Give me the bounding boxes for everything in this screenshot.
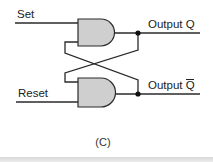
top-and-gate bbox=[78, 19, 115, 46]
junction-dot-q-bar bbox=[135, 91, 140, 96]
bottom-and-gate bbox=[78, 78, 116, 107]
sr-latch-diagram: Set Reset Output Q Output Q (C) bbox=[0, 0, 213, 162]
set-label: Set bbox=[17, 8, 35, 20]
output-q-bar-prefix: Output bbox=[148, 79, 186, 91]
junction-dot-q bbox=[135, 30, 140, 35]
output-q-bar-label: Output Q bbox=[148, 79, 195, 91]
output-q-bar-symbol: Q bbox=[186, 79, 195, 91]
reset-label: Reset bbox=[18, 87, 49, 99]
bottom-divider bbox=[0, 157, 213, 162]
output-q-label: Output Q bbox=[148, 18, 195, 30]
figure-caption: (C) bbox=[95, 136, 110, 148]
